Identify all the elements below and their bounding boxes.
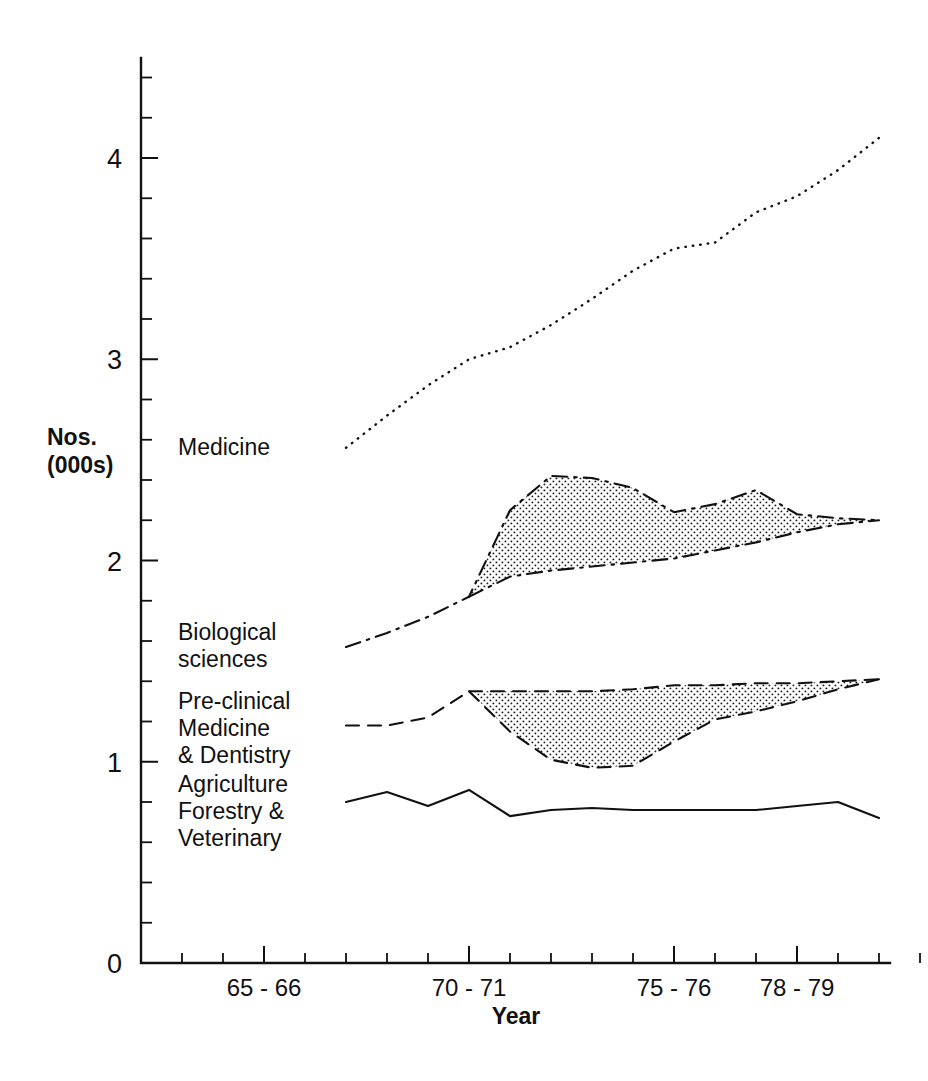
chart-figure: 0123465 - 6670 - 7175 - 7678 - 79 Medici… bbox=[0, 0, 928, 1081]
y-tick-label: 1 bbox=[107, 748, 122, 778]
series-label-pre-clinical-medicine-dentistry: Medicine bbox=[178, 715, 270, 741]
x-tick-label: 65 - 66 bbox=[227, 974, 302, 1001]
series-label-agriculture-forestry-veterinary: Agriculture bbox=[178, 771, 288, 797]
series-label-pre-clinical-medicine-dentistry: & Dentistry bbox=[178, 742, 291, 768]
series-label-medicine: Medicine bbox=[178, 434, 270, 460]
series-labels-group: MedicineBiologicalsciencesPre-clinicalMe… bbox=[178, 434, 291, 851]
y-axis-title-line1: Nos. bbox=[47, 424, 97, 450]
shaded-regions-group bbox=[469, 476, 879, 768]
line-chart-canvas: 0123465 - 6670 - 7175 - 7678 - 79 Medici… bbox=[0, 0, 928, 1081]
series-label-agriculture-forestry-veterinary: Forestry & bbox=[178, 798, 284, 824]
y-tick-label: 0 bbox=[107, 949, 122, 979]
series-label-pre-clinical-medicine-dentistry: Pre-clinical bbox=[178, 688, 290, 714]
y-axis-title-line2: (000s) bbox=[47, 452, 113, 478]
tick-labels-group: 0123465 - 6670 - 7175 - 7678 - 79 bbox=[107, 144, 834, 1001]
series-line-agriculture-forestry-veterinary bbox=[346, 790, 879, 818]
pre-clinical-shaded-gap bbox=[469, 679, 879, 768]
y-tick-label: 2 bbox=[107, 547, 122, 577]
y-tick-label: 3 bbox=[107, 345, 122, 375]
series-label-agriculture-forestry-veterinary: Veterinary bbox=[178, 825, 282, 851]
series-label-biological-sciences: sciences bbox=[178, 646, 267, 672]
y-tick-label: 4 bbox=[107, 144, 122, 174]
x-tick-label: 70 - 71 bbox=[432, 974, 507, 1001]
series-label-biological-sciences: Biological bbox=[178, 619, 276, 645]
x-tick-label: 78 - 79 bbox=[760, 974, 835, 1001]
x-tick-label: 75 - 76 bbox=[637, 974, 712, 1001]
series-line-medicine bbox=[346, 138, 879, 448]
x-axis-title: Year bbox=[492, 1003, 541, 1029]
